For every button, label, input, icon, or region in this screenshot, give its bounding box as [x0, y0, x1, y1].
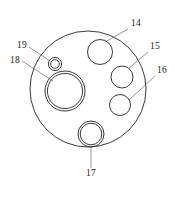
- leader-line-15: [128, 52, 148, 69]
- hole-16: [110, 95, 131, 116]
- reference-label-19: 19: [17, 40, 27, 50]
- reference-label-16: 16: [157, 65, 167, 75]
- bore-18: [45, 71, 85, 111]
- hole-17: [78, 121, 104, 147]
- hole-14: [88, 40, 113, 65]
- hole-19: [48, 57, 61, 70]
- reference-label-15: 15: [150, 41, 160, 51]
- figure-container: 14 15 16 17 18 19: [0, 0, 175, 200]
- leader-line-14: [105, 29, 128, 42]
- reference-label-14: 14: [131, 18, 141, 28]
- hole-15: [111, 66, 133, 88]
- technical-drawing-svg: 14 15 16 17 18 19: [0, 0, 175, 200]
- reference-label-17: 17: [86, 168, 96, 178]
- leader-line-19: [29, 47, 50, 61]
- reference-label-18: 18: [10, 55, 20, 65]
